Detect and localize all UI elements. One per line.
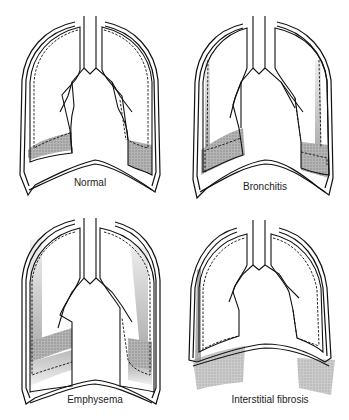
label-bronchitis: Bronchitis xyxy=(230,181,300,192)
lung-bronchitis-illustration xyxy=(175,0,349,210)
label-interstitial-fibrosis: Interstitial fibrosis xyxy=(215,394,325,405)
panel-bronchitis: Bronchitis xyxy=(175,0,349,210)
panel-normal: Normal xyxy=(0,0,175,210)
panel-interstitial-fibrosis: Interstitial fibrosis xyxy=(175,210,349,420)
label-normal: Normal xyxy=(60,177,120,188)
label-emphysema: Emphysema xyxy=(60,394,130,405)
lung-emphysema-illustration xyxy=(0,210,175,420)
panel-emphysema: Emphysema xyxy=(0,210,175,420)
lung-interstitial-fibrosis-illustration xyxy=(175,210,349,420)
